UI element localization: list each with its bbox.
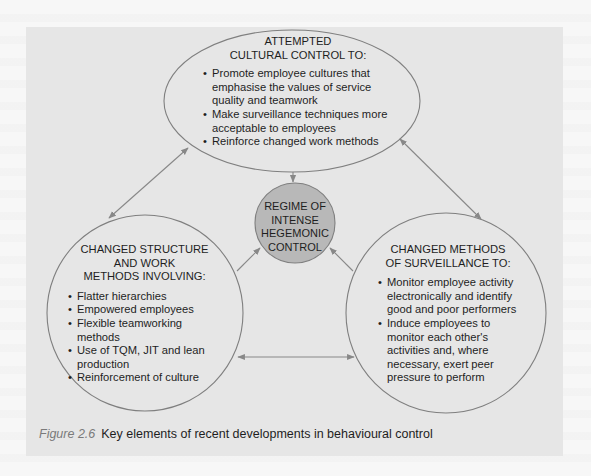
right-node-title-line2: OF SURVEILLANCE TO: [378,257,518,271]
top-node: ATTEMPTED CULTURAL CONTROL TO: Promote e… [203,35,393,149]
left-node-title: CHANGED STRUCTURE AND WORK METHODS INVOL… [80,243,209,284]
right-node-title: CHANGED METHODS OF SURVEILLANCE TO: [378,243,518,270]
center-node-line1: REGIME OF [255,200,335,214]
center-node: REGIME OF INTENSE HEGEMONIC CONTROL [255,200,335,254]
list-item: Empowered employees [68,303,209,317]
right-node: CHANGED METHODS OF SURVEILLANCE TO: Moni… [378,243,518,385]
left-node: CHANGED STRUCTURE AND WORK METHODS INVOL… [84,243,209,385]
top-node-list: Promote employee cultures that emphasise… [203,67,393,149]
list-item: Monitor employee activity electronically… [378,276,518,317]
list-item: Induce employees to monitor each other's… [378,317,518,385]
right-node-list: Monitor employee activity electronically… [378,276,518,385]
arrow-top-left [109,148,188,218]
list-item: Promote employee cultures that emphasise… [203,67,393,108]
list-item: Flexible teamworking methods [68,317,209,344]
left-node-title-line3: METHODS INVOLVING: [80,270,209,284]
center-node-line4: CONTROL [255,241,335,255]
left-node-title-line1: CHANGED STRUCTURE [80,243,209,257]
left-node-list: Flatter hierarchies Empowered employees … [68,290,209,385]
list-item: Reinforce changed work methods [203,135,393,149]
figure-caption-text: Key elements of recent developments in b… [101,427,432,441]
arrow-top-right [400,139,481,219]
left-node-title-line2: AND WORK [80,257,209,271]
list-item: Use of TQM, JIT and lean production [68,344,209,371]
figure-caption: Figure 2.6Key elements of recent develop… [39,427,433,441]
figure-label: Figure 2.6 [39,427,95,441]
center-node-line3: HEGEMONIC [255,227,335,241]
top-node-title-line1: ATTEMPTED [203,35,393,49]
list-item: Reinforcement of culture [68,371,209,385]
top-node-title: ATTEMPTED CULTURAL CONTROL TO: [203,35,393,62]
right-node-title-line1: CHANGED METHODS [378,243,518,257]
center-node-line2: INTENSE [255,214,335,228]
top-node-title-line2: CULTURAL CONTROL TO: [203,49,393,63]
list-item: Make surveillance techniques more accept… [203,108,393,135]
list-item: Flatter hierarchies [68,290,209,304]
